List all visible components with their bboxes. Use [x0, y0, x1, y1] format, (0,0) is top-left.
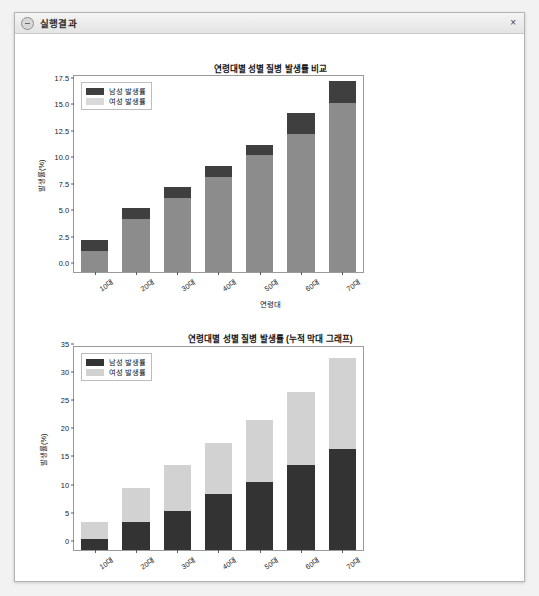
x-axis-tick: 40대: [221, 277, 239, 293]
x-axis-tick-mark: [342, 272, 343, 275]
legend-item: 남성 발생률: [86, 357, 146, 367]
y-axis-tick: 20: [61, 424, 69, 433]
x-axis-tick: 30대: [179, 555, 197, 571]
bar-slot: 70대: [329, 347, 356, 550]
legend-item: 여성 발생률: [86, 367, 146, 377]
y-axis-tick: 2.5: [59, 232, 69, 241]
legend-swatch-icon: [86, 359, 104, 366]
x-axis-tick-mark: [177, 550, 178, 553]
x-axis-tick: 20대: [138, 277, 156, 293]
bar-segment-female-top: [287, 113, 314, 134]
x-axis-tick: 60대: [303, 555, 321, 571]
bar-segment-female: [287, 392, 314, 465]
x-axis-tick-mark: [218, 550, 219, 553]
bar-slot: 30대: [164, 76, 191, 272]
x-axis-tick-mark: [301, 550, 302, 553]
x-axis-tick: 50대: [262, 555, 280, 571]
bar-segment-female-top: [81, 240, 108, 251]
chart-title: 연령대별 성별 질병 발생률 비교: [15, 62, 524, 74]
bar-segment-female-top: [164, 187, 191, 198]
bar-segment-male: [164, 198, 191, 272]
x-axis-label: 연령대: [15, 298, 524, 309]
legend-label: 남성 발생률: [109, 357, 146, 367]
bar-segment-male: [122, 522, 149, 550]
bar-segment-female: [205, 443, 232, 494]
bar-segment-male: [329, 103, 356, 273]
result-window: 실행결과 × 연령대별 성별 질병 발생률 비교 발생률(%) 10대20대30…: [14, 12, 525, 582]
x-axis-tick: 60대: [303, 277, 321, 293]
app-circle-icon: [21, 17, 34, 30]
x-axis-tick-mark: [218, 272, 219, 275]
close-icon[interactable]: ×: [510, 18, 516, 28]
x-axis-tick: 10대: [97, 555, 115, 571]
bar-segment-female: [122, 488, 149, 522]
y-axis-tick: 15.0: [55, 100, 69, 109]
bar-slot: 40대: [205, 347, 232, 550]
bar-segment-female: [246, 420, 273, 482]
x-axis-tick-mark: [342, 550, 343, 553]
bar-segment-male: [122, 219, 149, 272]
bar-segment-male: [246, 155, 273, 272]
bar-slot: 70대: [329, 76, 356, 272]
x-axis-tick: 70대: [345, 555, 363, 571]
bar-segment-male: [205, 177, 232, 272]
bar-slot: 30대: [164, 347, 191, 550]
bar-segment-female: [329, 358, 356, 448]
bar-segment-male: [164, 511, 191, 550]
figure-overlay-bar: 연령대별 성별 질병 발생률 비교 발생률(%) 10대20대30대40대50대…: [15, 42, 524, 314]
chart-legend: 남성 발생률여성 발생률: [81, 82, 152, 110]
x-axis-tick-mark: [260, 550, 261, 553]
chart-title: 연령대별 성별 질병 발생률 (누적 막대 그래프): [15, 332, 524, 344]
bar-slot: 40대: [205, 76, 232, 272]
bar-segment-male: [205, 494, 232, 550]
y-axis-tick: 5: [65, 508, 69, 517]
chart-legend: 남성 발생률여성 발생률: [81, 353, 152, 381]
bar-segment-female-top: [329, 81, 356, 102]
y-axis-label: 발생률(%): [35, 160, 46, 193]
x-axis-tick: 10대: [97, 277, 115, 293]
bar-segment-male: [329, 449, 356, 551]
x-axis-tick-mark: [301, 272, 302, 275]
y-axis-tick: 25: [61, 396, 69, 405]
x-axis-tick: 50대: [262, 277, 280, 293]
x-axis-label: 연령대: [15, 578, 524, 581]
x-axis-tick-mark: [136, 272, 137, 275]
y-axis-tick: 15: [61, 452, 69, 461]
y-axis-tick: 12.5: [55, 126, 69, 135]
legend-item: 여성 발생률: [86, 96, 146, 106]
bar-segment-female-top: [122, 208, 149, 219]
bar-segment-male: [81, 539, 108, 550]
y-axis-label: 발생률(%): [37, 434, 48, 467]
bar-segment-male: [287, 465, 314, 550]
legend-label: 여성 발생률: [109, 96, 146, 106]
y-axis-tick: 5.0: [59, 206, 69, 215]
x-axis-tick-mark: [95, 550, 96, 553]
bar-segment-male: [246, 482, 273, 550]
bar-segment-female-top: [205, 166, 232, 177]
bar-slot: 50대: [246, 347, 273, 550]
x-axis-tick: 30대: [179, 277, 197, 293]
x-axis-tick: 70대: [345, 277, 363, 293]
y-axis-tick: 7.5: [59, 179, 69, 188]
x-axis-tick-mark: [260, 272, 261, 275]
x-axis-tick: 40대: [221, 555, 239, 571]
plot-area: 10대20대30대40대50대60대70대 남성 발생률여성 발생률 0.02.…: [73, 75, 364, 273]
bar-segment-male: [81, 251, 108, 272]
y-axis-tick: 17.5: [55, 73, 69, 82]
plot-area: 10대20대30대40대50대60대70대 남성 발생률여성 발생률 05101…: [73, 346, 364, 551]
bar-segment-female: [164, 465, 191, 510]
y-axis-tick: 0: [65, 537, 69, 546]
window-client-area: 연령대별 성별 질병 발생률 비교 발생률(%) 10대20대30대40대50대…: [15, 34, 524, 581]
window-title: 실행결과: [40, 16, 77, 30]
legend-item: 남성 발생률: [86, 86, 146, 96]
window-title-bar: 실행결과 ×: [15, 13, 524, 34]
bar-slot: 60대: [287, 76, 314, 272]
bar-segment-female: [81, 522, 108, 539]
y-axis-tick: 35: [61, 339, 69, 348]
y-axis-tick: 10: [61, 480, 69, 489]
legend-swatch-icon: [86, 369, 104, 376]
legend-label: 남성 발생률: [109, 86, 146, 96]
legend-swatch-icon: [86, 88, 104, 95]
bar-slot: 60대: [287, 347, 314, 550]
x-axis-tick-mark: [177, 272, 178, 275]
